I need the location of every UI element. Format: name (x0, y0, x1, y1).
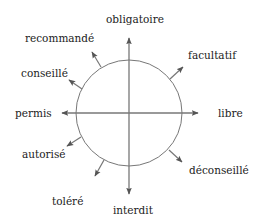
label-tolere: toléré (52, 195, 83, 207)
modality-diagram: obligatoire recommandé facultatif consei… (0, 0, 256, 223)
label-conseille: conseillé (21, 67, 68, 79)
arrow-facultatif (170, 67, 183, 79)
label-deconseille: déconseillé (189, 164, 249, 176)
label-autorise: autorisé (22, 148, 66, 160)
label-recommande: recommandé (25, 32, 94, 44)
label-obligatoire: obligatoire (106, 13, 164, 25)
arrow-deconseille (169, 150, 182, 162)
arrow-recommande (92, 52, 101, 67)
label-libre: libre (218, 107, 243, 119)
arrow-tolere (95, 160, 104, 176)
arrow-autorise (67, 137, 81, 146)
label-interdit: interdit (113, 204, 153, 216)
label-permis: permis (15, 107, 52, 119)
arrow-conseille (69, 80, 82, 89)
label-facultatif: facultatif (188, 49, 236, 61)
